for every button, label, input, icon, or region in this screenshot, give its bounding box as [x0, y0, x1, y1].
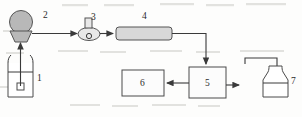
component-label-4: 4 — [142, 11, 147, 21]
component-label-1: 1 — [37, 73, 42, 83]
component-label-5: 5 — [205, 78, 210, 88]
reactor-to-unit5-line — [172, 34, 206, 65]
component-label-7: 7 — [291, 76, 296, 86]
valve — [78, 18, 100, 41]
component-label-2: 2 — [43, 10, 48, 20]
component-label-3: 3 — [91, 12, 96, 22]
pump — [10, 11, 33, 43]
collection-flask — [263, 66, 288, 97]
diagram-canvas: 2 3 4 1 6 5 7 — [0, 0, 302, 117]
tubular-reactor — [116, 27, 172, 40]
component-label-6: 6 — [140, 78, 145, 88]
process-flow-diagram: 2 3 4 1 6 5 7 — [0, 0, 302, 117]
